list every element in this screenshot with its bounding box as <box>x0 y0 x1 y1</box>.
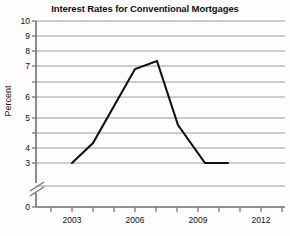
y-tick-label-10: 10 <box>14 17 30 26</box>
y-tick-label-7: 7 <box>14 62 30 71</box>
y-tick-label-4: 4 <box>14 144 30 153</box>
x-tick-label-2006: 2006 <box>115 216 155 225</box>
plot-area <box>0 0 290 236</box>
y-tick-label-9: 9 <box>14 32 30 41</box>
y-tick-label-0: 0 <box>14 203 30 212</box>
y-tick-label-3: 3 <box>14 159 30 168</box>
y-tick-label-5: 5 <box>14 114 30 123</box>
x-tick-label-2009: 2009 <box>178 216 218 225</box>
x-tick-label-2003: 2003 <box>52 216 92 225</box>
x-tick-label-2012: 2012 <box>241 216 281 225</box>
chart-container: Interest Rates for Conventional Mortgage… <box>0 0 290 236</box>
y-axis-break-icon <box>30 182 44 196</box>
y-tick-label-8: 8 <box>14 47 30 56</box>
y-tick-label-6: 6 <box>14 93 30 102</box>
